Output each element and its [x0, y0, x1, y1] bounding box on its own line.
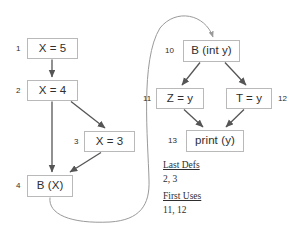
node-label-4: B (X) — [37, 180, 64, 192]
node-label-10: B (int y) — [191, 45, 232, 57]
legend-first-uses-values: 11, 12 — [163, 206, 186, 216]
node-number-10: 10 — [165, 47, 174, 55]
diagram-edges — [0, 0, 297, 232]
node-box-1[interactable]: X = 5 — [27, 38, 78, 59]
edge-12-to-13 — [226, 110, 244, 128]
node-box-11[interactable]: Z = y — [156, 88, 204, 109]
edge-3-to-4 — [70, 153, 101, 173]
node-number-3: 3 — [74, 138, 78, 146]
node-label-13: print (y) — [195, 135, 235, 147]
edge-2-to-3 — [71, 102, 105, 129]
node-box-4[interactable]: B (X) — [27, 175, 73, 197]
node-box-10[interactable]: B (int y) — [183, 40, 240, 62]
legend-last-defs-heading: Last Defs — [163, 161, 200, 171]
node-number-12: 12 — [278, 95, 287, 103]
node-number-13: 13 — [168, 137, 177, 145]
node-number-1: 1 — [16, 45, 20, 53]
node-box-3[interactable]: X = 3 — [84, 131, 135, 152]
edge-10-to-12 — [225, 63, 246, 86]
node-box-12[interactable]: T = y — [226, 88, 272, 109]
node-label-11: Z = y — [167, 93, 193, 105]
node-label-3: X = 3 — [96, 136, 124, 148]
node-label-2: X = 4 — [39, 85, 67, 97]
edge-10-to-11 — [182, 63, 200, 86]
node-number-4: 4 — [16, 182, 20, 190]
node-label-1: X = 5 — [39, 43, 67, 55]
edge-11-to-13 — [184, 110, 203, 128]
node-number-11: 11 — [143, 95, 151, 103]
node-label-12: T = y — [236, 93, 262, 105]
node-box-13[interactable]: print (y) — [186, 130, 244, 152]
node-number-2: 2 — [16, 87, 20, 95]
diagram-canvas: X = 5 1 X = 4 2 X = 3 3 B (X) 4 B (int y… — [0, 0, 297, 232]
legend-first-uses-heading: First Uses — [163, 192, 201, 202]
legend-last-defs-values: 2, 3 — [163, 175, 177, 185]
node-box-2[interactable]: X = 4 — [27, 80, 78, 101]
